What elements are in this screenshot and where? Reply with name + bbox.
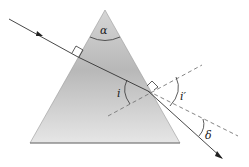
deviation-angle-label: δ	[205, 129, 212, 142]
prism-diagram-svg: α i i′ δ	[0, 0, 249, 167]
incident-ray	[9, 19, 78, 57]
apex-angle-label: α	[100, 24, 108, 37]
deviation-angle-arc	[199, 119, 204, 136]
incident-arrow-icon	[36, 31, 43, 36]
incidence-angle-label: i	[117, 87, 121, 100]
prism-diagram: α i i′ δ	[0, 0, 249, 167]
emergence-angle-label: i′	[180, 90, 187, 103]
